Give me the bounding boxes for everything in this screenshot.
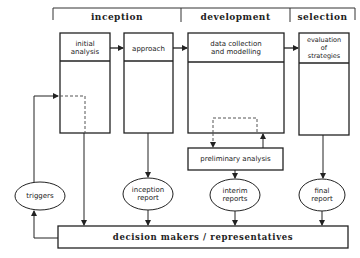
approach-label: approach <box>124 45 173 53</box>
phase-development: development <box>181 12 290 22</box>
inception-report-label: inception report <box>123 186 173 202</box>
phase-inception: inception <box>53 12 181 22</box>
decision-makers-label: decision makers / representatives <box>58 232 348 242</box>
initial-analysis-label: initial analysis <box>60 40 110 56</box>
evaluation-label: evaluation of strategies <box>299 36 349 60</box>
preliminary-analysis-label: preliminary analysis <box>188 155 283 163</box>
phase-selection: selection <box>290 12 355 22</box>
final-report-label: final report <box>299 187 345 203</box>
triggers-label: triggers <box>15 192 65 200</box>
interim-reports-label: interim reports <box>210 187 260 203</box>
data-collection-label: data collection and modelling <box>188 40 284 56</box>
